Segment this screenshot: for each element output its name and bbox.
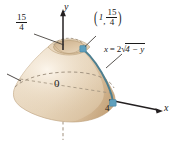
x-axis-label: x [164,103,168,113]
point-comma: , [103,17,105,27]
fraction-numerator: 15 [16,13,27,22]
open-paren: ( [94,9,98,26]
figure-container: y x 0 15 4 ( 1 , 15 4 ) x = 2√4 − y 4 [0,0,178,153]
leader-line-point [85,36,96,47]
point-y-fraction: 15 4 [106,8,117,27]
base-radius-tick [7,74,21,81]
point-y-denominator: 4 [106,17,117,27]
fraction-15-over-4: 15 4 [16,13,27,32]
top-radius-label: 15 4 [16,13,27,32]
y-axis-label: y [64,2,68,12]
x-intercept-label: 4 [105,104,110,113]
point-dot-x-intercept [110,100,117,107]
curve-equation-label: x = 2√4 − y [104,45,145,54]
equation-radicand: 4 − y [125,43,145,54]
point-y-numerator: 15 [106,8,117,17]
x-axis [109,100,163,114]
solid-body [13,47,115,122]
leader-line-top-radius [34,34,64,45]
leader-line-equation [106,54,122,68]
point-coordinate-label: ( 1 , 15 4 ) [93,8,123,27]
x-axis-arrowhead [155,108,163,113]
origin-label: 0 [54,78,60,89]
fraction-denominator: 4 [16,22,27,32]
close-paren: ) [118,9,122,26]
